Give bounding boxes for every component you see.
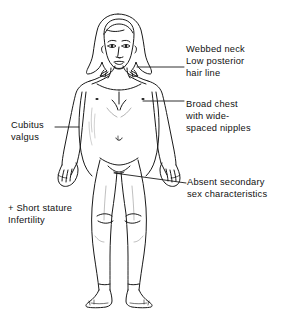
foot-right: [126, 290, 152, 308]
hand-left: [58, 163, 78, 186]
annotation-line: Broad chest: [186, 99, 251, 111]
turner-syndrome-figure: Webbed neck Low posterior hair line Broa…: [0, 0, 283, 314]
annotation-line: + Short stature: [8, 203, 72, 215]
annotation-line: Webbed neck: [186, 44, 245, 56]
annotation-line: hair line: [186, 68, 245, 80]
annotation-line: Low posterior: [186, 56, 245, 68]
annotation-absent-secondary-sex-characteristics: Absent secondary sex characteristics: [187, 177, 267, 201]
annotation-webbed-neck: Webbed neck Low posterior hair line: [186, 44, 245, 79]
nipple-left: [95, 98, 98, 100]
neck-group: [90, 68, 148, 84]
annotation-short-stature-infertility: + Short stature Infertility: [8, 203, 72, 227]
annotation-cubitus-valgus: Cubitus valgus: [11, 120, 44, 144]
foot-left: [86, 290, 112, 308]
annotation-line: valgus: [11, 132, 44, 144]
legs-group: [92, 160, 147, 290]
annotation-broad-chest: Broad chest with wide- spaced nipples: [186, 99, 251, 134]
annotation-line: spaced nipples: [186, 123, 251, 135]
annotation-line: Cubitus: [11, 120, 44, 132]
annotation-line: sex characteristics: [187, 189, 267, 201]
annotation-line: Infertility: [8, 215, 72, 227]
hand-right: [160, 163, 180, 186]
annotation-line: with wide-: [186, 111, 251, 123]
nipple-right: [141, 98, 144, 100]
torso-group: [62, 81, 176, 176]
leader-lines: [55, 67, 186, 183]
annotation-line: Absent secondary: [187, 177, 267, 189]
